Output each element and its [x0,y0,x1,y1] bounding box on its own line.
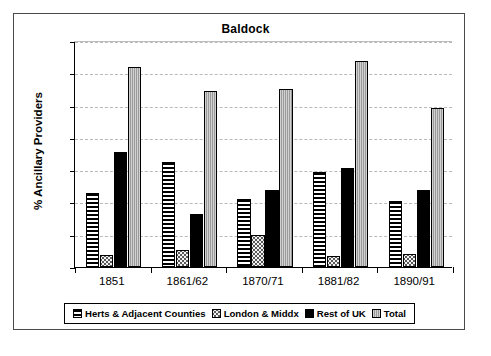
bar [279,89,292,267]
legend-swatch-icon [212,309,221,318]
bar [403,254,416,267]
bar [204,91,217,267]
legend-item: Herts & Adjacent Counties [73,308,206,319]
bar [313,172,326,267]
legend-label: Herts & Adjacent Counties [85,308,206,319]
bar [341,168,354,267]
plot-area [74,42,452,268]
legend-swatch-icon [372,309,381,318]
legend-swatch-icon [73,309,82,318]
bar [162,162,175,267]
y-axis-title: % Ancillary Providers [32,51,44,251]
y-axis-tick-mark [70,236,75,237]
bar [355,61,368,267]
x-axis-tick-mark [453,267,454,273]
x-axis-tick-mark [151,267,152,273]
x-axis-tick-mark [75,267,76,273]
bar [86,193,99,267]
chart-title: Baldock [0,22,491,36]
legend-item: Rest of UK [305,308,366,319]
y-axis-tick-mark [70,107,75,108]
x-axis-tick-mark [302,267,303,273]
legend-label: Rest of UK [317,308,366,319]
gridline [75,42,452,43]
x-axis-tick-label: 1851 [74,275,150,287]
legend-swatch-icon [305,309,314,318]
bar [237,199,250,267]
y-axis-tick-mark [70,171,75,172]
x-axis-tick-mark [226,267,227,273]
bar [176,250,189,267]
y-axis-tick-mark [70,203,75,204]
legend-item: Total [372,308,406,319]
x-axis-tick-label: 1890/91 [376,275,452,287]
x-axis-tick-mark [377,267,378,273]
legend-label: Total [384,308,406,319]
legend-item: London & Middx [212,308,299,319]
y-axis-tick-mark [70,139,75,140]
bar [327,256,340,267]
bar [100,255,113,267]
x-axis-tick-label: 1861/62 [150,275,226,287]
bar [190,214,203,267]
bar [417,190,430,267]
legend-label: London & Middx [224,308,299,319]
x-axis-tick-label: 1870/71 [225,275,301,287]
y-axis-tick-mark [70,42,75,43]
bar [128,67,141,267]
chart-legend: Herts & Adjacent CountiesLondon & MiddxR… [64,303,415,324]
chart-figure: Baldock % Ancillary Providers 0510152025… [0,0,491,356]
y-axis-tick-mark [70,74,75,75]
bar [251,235,264,267]
bar [431,108,444,267]
bar [114,152,127,267]
x-axis-tick-label: 1881/82 [301,275,377,287]
bar [389,201,402,267]
bar [265,190,278,267]
